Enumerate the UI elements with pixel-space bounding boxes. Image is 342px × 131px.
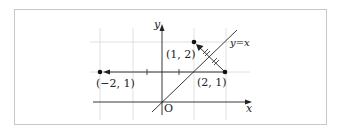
- x-axis-label: x: [246, 102, 253, 115]
- point-label-2-1: (2, 1): [197, 76, 227, 89]
- coordinate-diagram: y x O y=x (1, 2) (2, 1) (−2, 1): [0, 0, 342, 131]
- y-axis-label: y: [153, 18, 161, 31]
- arrowhead-left-icon: [103, 70, 110, 75]
- arrow-reflection: [198, 46, 225, 72]
- line-label: y=x: [229, 37, 250, 48]
- equal-length-marks: [203, 49, 219, 65]
- origin-label: O: [164, 102, 173, 115]
- point-1-2: [192, 40, 197, 45]
- point-2-1: [223, 70, 228, 75]
- y-axis-arrow-icon: [160, 24, 165, 31]
- point-label-neg2-1: (−2, 1): [96, 77, 135, 90]
- point-neg2-1: [98, 70, 103, 75]
- point-label-1-2: (1, 2): [166, 48, 196, 61]
